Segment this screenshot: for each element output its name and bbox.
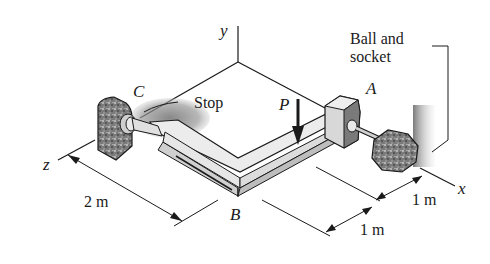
stop-label: Stop [194,94,223,111]
diagram-graphics [0,0,490,264]
z-axis-line-front [58,140,95,160]
diagram-canvas: y z x C B A P Stop Ball and socket 2 m 1… [0,0,490,264]
x-axis-line-front [420,168,455,186]
point-b-label: B [230,206,240,223]
dimension-1m-bottom-label: 1 m [360,222,384,238]
ball-socket-a [325,96,435,172]
dimension-2m-label: 2 m [84,194,108,210]
point-c-label: C [133,83,144,100]
bent-rod [150,113,344,197]
y-axis-label: y [220,22,228,39]
z-axis-label: z [43,156,50,173]
force-p-label: P [279,96,289,113]
point-a-label: A [366,80,376,97]
x-axis-label: x [458,180,466,197]
ball-socket-label-line2: socket [350,48,391,65]
ball-socket-label-line1: Ball and [350,30,404,47]
dimension-1m-right-label: 1 m [412,192,436,208]
